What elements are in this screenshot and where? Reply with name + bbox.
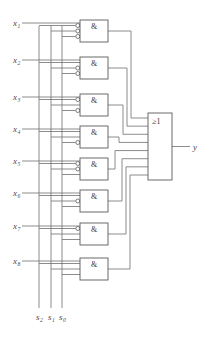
gate-layer: &&&&&&&&≥1: [80, 20, 172, 280]
and-gate-5-label: &: [91, 160, 98, 169]
and-gate-7-label: &: [91, 225, 98, 234]
and-gate-4: &: [80, 126, 108, 148]
input-label-x4: x4: [12, 124, 20, 135]
input-label-x7-subscript: 7: [17, 226, 20, 232]
inversion-bubble-gate2-pin2: [76, 66, 80, 70]
and-gate-3: &: [80, 94, 108, 116]
circuit-diagram: &&&&&&&&≥1 yx1x2x3x4x5x6x7x8s2s1s0: [0, 0, 213, 341]
input-label-x6-subscript: 6: [17, 193, 20, 199]
input-label-x7-text: x7: [12, 221, 20, 232]
input-label-x1-text: x1: [12, 18, 20, 29]
inversion-bubble-gate3-pin3: [76, 109, 80, 113]
and-gate-4-label: &: [91, 128, 98, 137]
input-label-x4-text: x4: [12, 124, 20, 135]
input-label-x1-subscript: 1: [17, 23, 20, 29]
input-label-x8-text: x8: [12, 256, 20, 267]
circuit-svg: &&&&&&&&≥1 yx1x2x3x4x5x6x7x8s2s1s0: [0, 0, 213, 341]
inversion-bubble-gate1-pin1: [76, 24, 80, 28]
input-label-x5-subscript: 5: [17, 161, 20, 167]
inversion-bubble-gate5-pin2: [76, 167, 80, 171]
output-label-y-text: y: [192, 142, 197, 152]
select-label-s2: s2: [36, 312, 43, 323]
select-label-s0: s0: [59, 312, 66, 323]
and-gate-6-output-wire: [108, 159, 148, 201]
and-gate-4-output-wire: [108, 137, 148, 142]
and-gate-1: &: [80, 20, 108, 42]
select-label-s0-text: s0: [59, 312, 66, 323]
input-label-x5: x5: [12, 156, 20, 167]
and-gate-7-output-wire: [108, 167, 148, 234]
select-label-s2-text: s2: [36, 312, 43, 323]
or-gate: ≥1: [148, 113, 172, 180]
input-label-x8-subscript: 8: [17, 261, 20, 267]
and-gate-8-label: &: [91, 260, 98, 269]
and-gate-3-label: &: [91, 96, 98, 105]
input-label-x1: x1: [12, 18, 20, 29]
inversion-bubble-gate6-pin2: [76, 199, 80, 203]
input-label-x6: x6: [12, 188, 20, 199]
inversion-bubble-gate4-pin3: [76, 141, 80, 145]
select-label-s2-subscript: 2: [40, 317, 43, 323]
inversion-bubble-gate2-pin3: [76, 72, 80, 76]
and-gate-8-output-wire: [108, 175, 148, 269]
input-label-x6-text: x6: [12, 188, 20, 199]
and-gate-2: &: [80, 57, 108, 79]
and-gate-5: &: [80, 158, 108, 180]
and-gate-8: &: [80, 258, 108, 280]
inversion-bubble-gate5-pin1: [76, 162, 80, 166]
input-label-x2-text: x2: [12, 55, 20, 66]
and-gate-1-label: &: [91, 22, 98, 31]
and-gate-3-output-wire: [108, 105, 148, 134]
inversion-bubble-gate1-pin2: [76, 29, 80, 33]
and-gate-6-label: &: [91, 192, 98, 201]
and-gate-5-output-wire: [108, 151, 148, 169]
and-gate-2-label: &: [91, 59, 98, 68]
and-gate-2-output-wire: [108, 68, 148, 126]
input-label-x2-subscript: 2: [17, 60, 20, 66]
input-label-x7: x7: [12, 221, 20, 232]
input-label-x3-subscript: 3: [16, 97, 20, 103]
input-label-x2: x2: [12, 55, 20, 66]
and-gate-6: &: [80, 190, 108, 212]
select-label-s1: s1: [48, 312, 55, 323]
inversion-bubble-gate3-pin1: [76, 98, 80, 102]
inversion-bubble-gate1-pin3: [76, 35, 80, 39]
output-label-y: y: [192, 142, 197, 152]
inversion-bubble-gate7-pin1: [76, 227, 80, 231]
select-label-s1-subscript: 1: [52, 317, 55, 323]
input-label-x3: x3: [12, 92, 20, 103]
input-label-x5-text: x5: [12, 156, 20, 167]
select-label-s1-text: s1: [48, 312, 55, 323]
input-label-x4-subscript: 4: [17, 129, 20, 135]
input-label-x3-text: x3: [12, 92, 20, 103]
select-label-s0-subscript: 0: [63, 317, 66, 323]
or-gate-label: ≥1: [152, 117, 160, 126]
and-gate-7: &: [80, 223, 108, 245]
input-label-x8: x8: [12, 256, 20, 267]
